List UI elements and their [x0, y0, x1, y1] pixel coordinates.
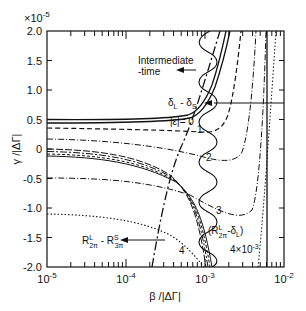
annotation-4: 4 — [179, 245, 185, 256]
x-axis: 10-5 10-4 10-3 10-2 — [37, 271, 294, 285]
series-1 — [47, 31, 241, 132]
y-tick-label: -0.5 — [23, 173, 42, 185]
y-axis: 2.0 1.5 1.0 0.5 0 -0.5 -1.0 -1.5 -2.0 — [23, 25, 42, 273]
y-tick-label: 2.0 — [27, 25, 42, 37]
arrowhead-intermediate — [176, 67, 184, 73]
plot-area — [47, 31, 284, 267]
series-eps0-inner — [47, 31, 230, 123]
x-tick-label: 10-3 — [195, 271, 215, 285]
y-tick-label: 1.5 — [27, 55, 42, 67]
annotation-time: -time — [138, 66, 161, 77]
series-band-4 — [47, 156, 212, 267]
x-axis-title: β /|ΔΓ| — [149, 290, 181, 302]
y-axis-title: γ /|ΔΓ| — [10, 134, 22, 165]
y-tick-label: 0 — [36, 143, 42, 155]
y-tick-label: 0.5 — [27, 114, 42, 126]
annotation-intermediate: Intermediate — [138, 55, 194, 66]
x-tick-label: 10-2 — [274, 271, 294, 285]
chart: ×10-5 2.0 1.5 1.0 0.5 0 -0.5 -1.0 -1.5 -… — [0, 0, 306, 311]
series-2 — [47, 31, 256, 160]
annotation-4e-3: 4×10-3 — [230, 243, 259, 255]
y-tick-label: -1.0 — [23, 202, 42, 214]
series-band-3 — [47, 154, 210, 267]
annotation-3: 3 — [216, 205, 222, 216]
y-tick-label: -1.5 — [23, 232, 42, 244]
y-tick-label: -2.0 — [23, 261, 42, 273]
x-tick-label: 10-4 — [116, 271, 136, 285]
annotation-delta-l-delta-s: δL - δS — [168, 97, 197, 110]
x-tick-label: 10-5 — [37, 271, 57, 285]
y-multiplier: ×10-5 — [24, 10, 50, 24]
annotation-eps-zero: |ε|= 0 — [170, 116, 194, 127]
x-ticks — [71, 31, 281, 267]
annotation-2: 2 — [206, 152, 212, 163]
annotation-1: 1 — [197, 124, 203, 135]
annotation-rl-delta-l: (RL2π-δL) — [208, 224, 243, 239]
y-tick-label: 1.0 — [27, 84, 42, 96]
annotation-r2pi-r3pi: RL2π - RS3π — [82, 234, 124, 249]
